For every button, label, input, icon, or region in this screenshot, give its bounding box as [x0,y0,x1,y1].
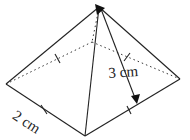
edge-apex-left [6,7,99,84]
tick-front-left [41,105,47,114]
slant-height-arrow [95,4,140,104]
arrowhead-bottom-icon [131,94,140,104]
base-edge-front-right [85,79,180,136]
arrowhead-top-icon [95,4,105,15]
tick-marks [41,53,131,114]
pyramid-diagram: 3 cm 2 cm [0,0,190,140]
hidden-edges [6,8,180,84]
slant-height-label: 3 cm [108,64,139,81]
edge-apex-front [85,7,99,136]
tick-back-right [124,53,130,61]
